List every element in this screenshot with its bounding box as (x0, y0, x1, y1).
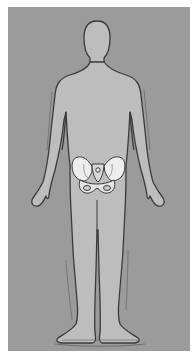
body-figure (8, 7, 190, 351)
illustration-panel (8, 7, 190, 351)
